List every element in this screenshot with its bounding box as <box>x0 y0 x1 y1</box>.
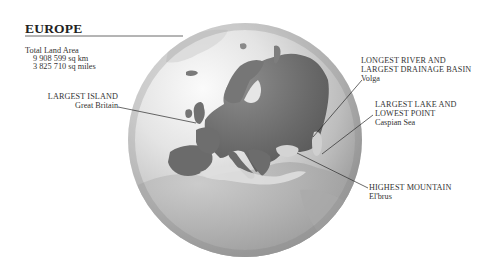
callout-value: Great Britain <box>34 101 118 110</box>
callout-largest-lake: LARGEST LAKE AND LOWEST POINT Caspian Se… <box>375 100 457 127</box>
callout-value: Caspian Sea <box>375 118 457 127</box>
callout-heading-line-2: LARGEST DRAINAGE BASIN <box>361 65 471 74</box>
callout-heading-line-1: LONGEST RIVER AND <box>361 56 471 65</box>
callout-highest-mountain: HIGHEST MOUNTAIN El'brus <box>369 183 451 201</box>
callout-heading: HIGHEST MOUNTAIN <box>369 183 451 192</box>
callout-longest-river: LONGEST RIVER AND LARGEST DRAINAGE BASIN… <box>361 56 471 83</box>
callout-largest-island: LARGEST ISLAND Great Britain <box>34 92 118 110</box>
callout-heading: LARGEST ISLAND <box>34 92 118 101</box>
title-block: EUROPE Total Land Area 9 908 599 sq km 3… <box>25 22 185 71</box>
total-land-area-miles: 3 825 710 sq miles <box>25 63 185 71</box>
map-title: EUROPE <box>25 22 185 36</box>
callout-value: El'brus <box>369 192 451 201</box>
callout-heading-line-1: LARGEST LAKE AND <box>375 100 457 109</box>
callout-heading-line-2: LOWEST POINT <box>375 109 457 118</box>
callout-value: Volga <box>361 74 471 83</box>
